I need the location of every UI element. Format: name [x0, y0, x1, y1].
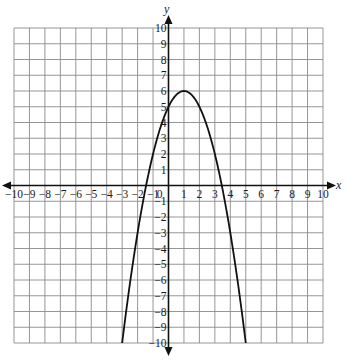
y-tick-label: −5: [154, 258, 166, 270]
y-tick-label: 6: [161, 85, 167, 97]
y-tick-label: 3: [161, 132, 167, 144]
x-tick-label: 1: [181, 188, 187, 200]
x-tick-label: −9: [23, 188, 35, 200]
x-tick-label: 6: [258, 188, 264, 200]
x-tick-label: 10: [317, 188, 329, 200]
x-tick-label: 2: [197, 188, 203, 200]
x-tick-label: −4: [101, 188, 113, 200]
x-tick-label: −2: [131, 188, 143, 200]
y-tick-label: 7: [161, 69, 167, 81]
y-tick-label: −6: [154, 274, 166, 286]
x-tick-label: 8: [289, 188, 295, 200]
y-tick-label: −10: [149, 337, 167, 349]
y-tick-label: −2: [154, 211, 166, 223]
x-tick-label: 9: [305, 188, 311, 200]
y-tick-label: −3: [154, 227, 166, 239]
x-tick-label: 4: [227, 188, 233, 200]
y-tick-label: −1: [154, 195, 166, 207]
x-tick-label: −3: [116, 188, 128, 200]
y-tick-label: −9: [154, 321, 166, 333]
x-tick-label: 5: [243, 188, 249, 200]
x-tick-label: −10: [5, 188, 23, 200]
x-tick-label: 3: [212, 188, 218, 200]
y-tick-label: 1: [161, 164, 167, 176]
x-tick-label: 7: [274, 188, 280, 200]
y-tick-label: 8: [161, 54, 167, 66]
y-tick-label: 9: [161, 38, 167, 50]
coordinate-plane: −10−9−8−7−6−5−4−3−2−1012345678910−10−9−8…: [0, 0, 349, 362]
x-tick-label: −5: [85, 188, 97, 200]
y-tick-label: −8: [154, 306, 166, 318]
y-tick-label: 2: [161, 148, 167, 160]
axes: [2, 15, 336, 356]
y-tick-label: −7: [154, 290, 166, 302]
y-axis-label: y: [163, 2, 170, 16]
x-tick-label: −6: [70, 188, 82, 200]
x-tick-label: −7: [54, 188, 66, 200]
x-tick-label: −8: [39, 188, 51, 200]
y-tick-label: −4: [154, 243, 166, 255]
y-tick-label: 10: [155, 22, 167, 34]
x-axis-label: x: [335, 178, 342, 192]
